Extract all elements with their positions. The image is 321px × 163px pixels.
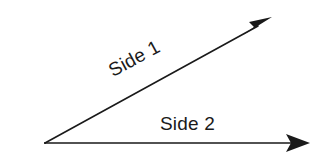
label-side-2: Side 2	[160, 114, 215, 133]
upper-ray	[45, 17, 272, 143]
vertex-point	[44, 142, 46, 144]
angle-diagram: Side 1 Side 2	[0, 0, 321, 163]
lower-ray	[45, 134, 310, 152]
angle-rays-graphic	[0, 0, 321, 163]
